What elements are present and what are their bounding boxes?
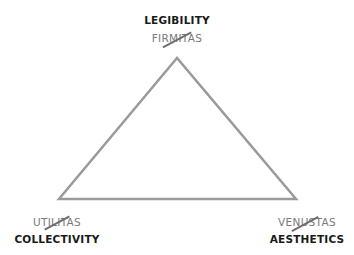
triangle-shape [59, 58, 296, 199]
vertex-bottom-left-label: UTILITAS COLLECTIVITY [12, 211, 102, 245]
term-venustas: VENUSTAS [278, 216, 336, 228]
vertex-top-label: LEGIBILITY FIRMITAS [127, 14, 227, 46]
term-firmitas: FIRMITAS [152, 32, 202, 44]
vertex-bottom-right-label: VENUSTAS AESTHETICS [262, 211, 352, 245]
term-legibility: LEGIBILITY [127, 14, 227, 26]
term-aesthetics: AESTHETICS [262, 233, 352, 245]
term-utilitas: UTILITAS [33, 216, 81, 228]
term-collectivity: COLLECTIVITY [12, 233, 102, 245]
